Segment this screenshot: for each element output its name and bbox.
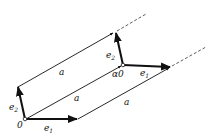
dashed-extension-upper — [117, 14, 146, 31]
dashed-extension-lower — [172, 47, 206, 66]
label-a-middle: a — [74, 93, 79, 103]
diagram-canvas: 0 α0 e1 e2 e2 e1 a a a — [0, 0, 217, 140]
alpha-origin-point — [121, 63, 125, 67]
label-alpha-origin: α0 — [112, 69, 124, 79]
origin-point — [23, 117, 27, 121]
label-a-upper: a — [59, 67, 64, 77]
label-e2-origin: e2 — [9, 102, 18, 113]
label-e1-origin: e1 — [44, 123, 53, 134]
vector-e2-at-alpha-origin — [116, 33, 123, 65]
label-e2-alpha: e2 — [106, 50, 115, 61]
label-e1-alpha: e1 — [140, 68, 149, 79]
label-origin: 0 — [17, 120, 23, 130]
vector-e1-at-alpha-origin — [123, 65, 170, 67]
label-a-lower: a — [124, 97, 129, 107]
vector-e2-at-origin — [18, 87, 25, 119]
